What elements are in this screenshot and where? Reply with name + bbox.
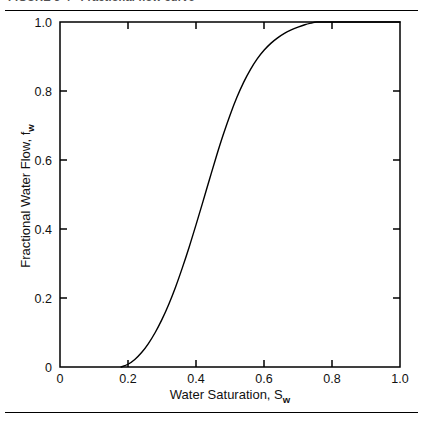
plot-frame bbox=[60, 22, 400, 367]
y-tick-label: 0.4 bbox=[35, 223, 52, 237]
y-axis-tick-labels: 00.20.40.60.81.0 bbox=[35, 16, 52, 375]
y-tick-label: 0.6 bbox=[35, 154, 52, 168]
y-axis-title: Fractional Water Flow, fw bbox=[18, 124, 36, 268]
x-tick-label: 0 bbox=[57, 372, 64, 386]
x-tick-label: 1.0 bbox=[391, 372, 408, 386]
x-axis-tick-labels: 00.20.40.60.81.0 bbox=[57, 372, 409, 386]
fractional-flow-chart: 00.20.40.60.81.0 00.20.40.60.81.0 Water … bbox=[0, 0, 423, 423]
x-tick-label: 0.2 bbox=[119, 372, 136, 386]
y-tick-label: 1.0 bbox=[35, 16, 52, 30]
y-tick-label: 0.8 bbox=[35, 85, 52, 99]
chart-plot-area: 00.20.40.60.81.0 00.20.40.60.81.0 Water … bbox=[0, 0, 423, 423]
x-axis-title: Water Saturation, Sw bbox=[170, 387, 291, 405]
x-tick-label: 0.4 bbox=[187, 372, 204, 386]
y-tick-label: 0 bbox=[45, 361, 52, 375]
y-tick-label: 0.2 bbox=[35, 292, 52, 306]
figure-page: FIGURE 5-4Fractional flow curve 00.20.40… bbox=[0, 0, 423, 423]
figure-rule-bottom bbox=[5, 412, 418, 413]
x-tick-label: 0.8 bbox=[323, 372, 340, 386]
x-tick-label: 0.6 bbox=[255, 372, 272, 386]
